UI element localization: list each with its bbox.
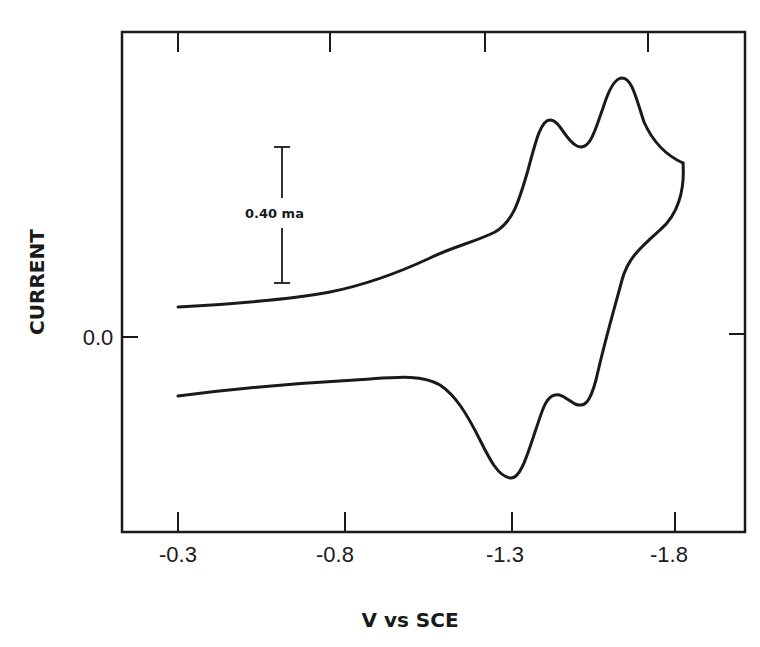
x-tick-label: -1.8 [650, 542, 688, 567]
cyclic-voltammogram-chart: 0.40 ma -0.3 -0.8 -1.3 -1.8 0.0 V vs SCE… [0, 0, 760, 647]
x-tick-label: -1.3 [486, 542, 524, 567]
plot-frame [122, 32, 745, 532]
y-axis-title: CURRENT [25, 229, 49, 335]
x-tick-label: -0.8 [316, 542, 354, 567]
scale-bar-label: 0.40 ma [245, 206, 304, 221]
top-ticks [178, 32, 648, 52]
bottom-ticks [178, 512, 675, 532]
forward-sweep-curve [178, 78, 683, 307]
y-tick-label: 0.0 [83, 325, 114, 350]
x-tick-label: -0.3 [159, 542, 197, 567]
x-axis-title: V vs SCE [361, 608, 458, 632]
